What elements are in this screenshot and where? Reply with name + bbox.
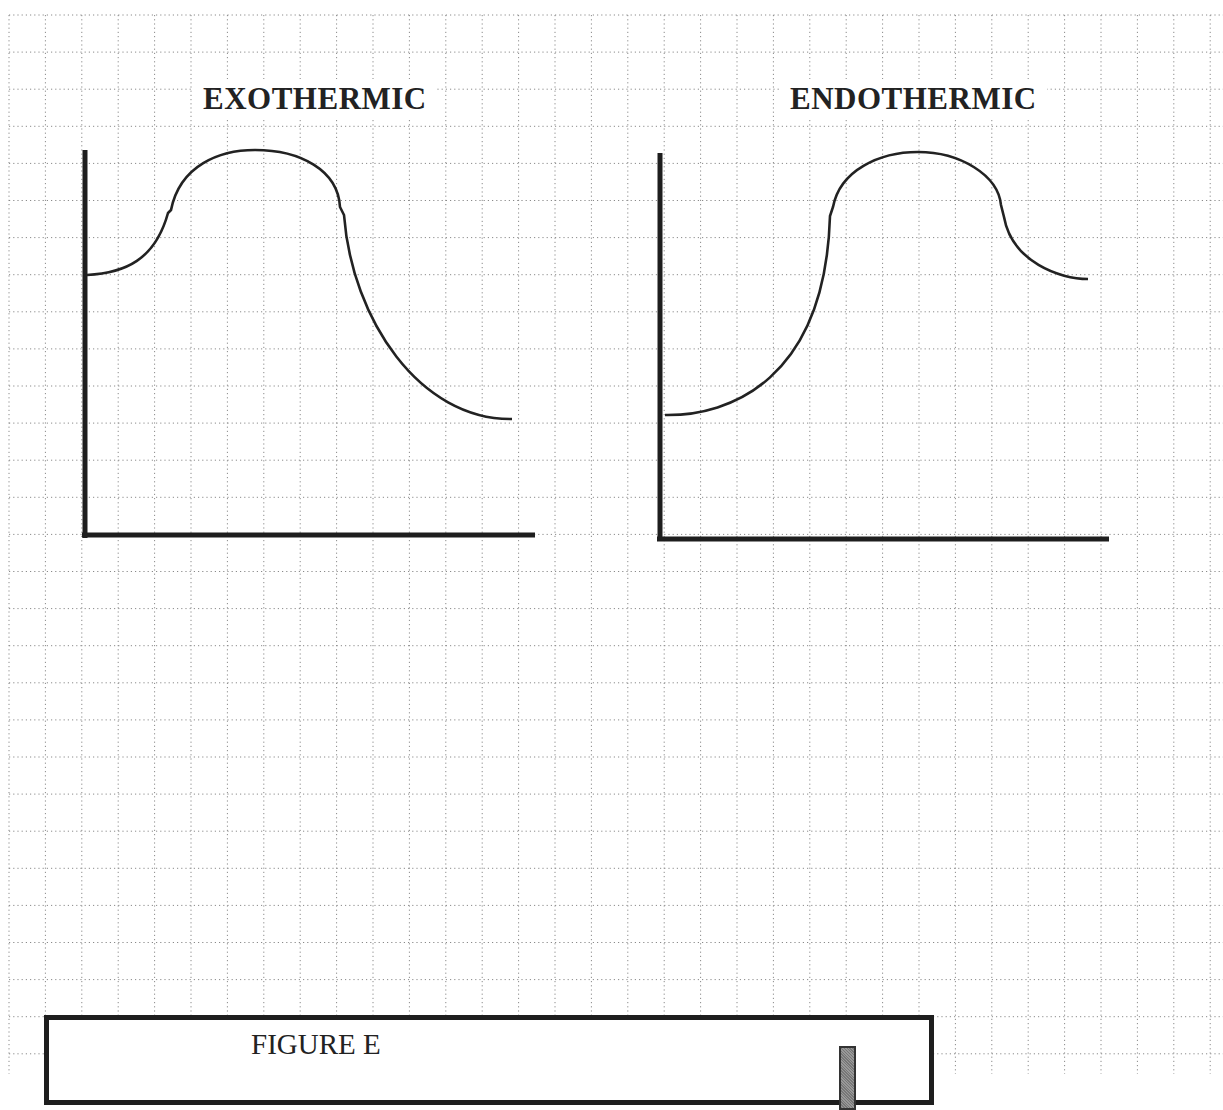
- figure-caption-box: FIGURE E: [44, 1015, 934, 1105]
- endothermic-title: ENDOTHERMIC: [780, 79, 1047, 119]
- figure-caption: FIGURE E: [251, 1028, 381, 1061]
- exothermic-title: EXOTHERMIC: [193, 79, 437, 119]
- shaded-marker-icon: [839, 1046, 856, 1110]
